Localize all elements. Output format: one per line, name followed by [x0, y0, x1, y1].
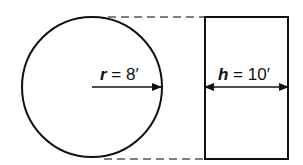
cylinder-diagram: r = 8′ h = 10′	[0, 0, 303, 165]
height-label: h = 10′	[218, 65, 270, 84]
rectangle-side-view	[205, 17, 288, 159]
radius-label: r = 8′	[100, 65, 139, 84]
